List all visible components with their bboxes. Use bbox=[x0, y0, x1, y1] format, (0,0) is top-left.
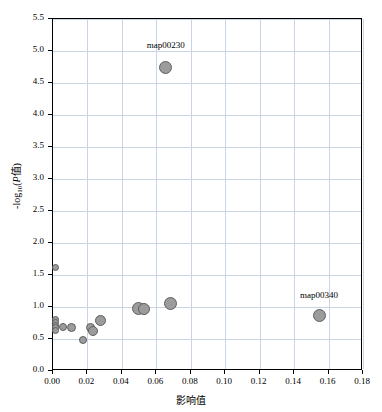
y-tick-label: 4.0 bbox=[8, 108, 44, 118]
y-axis-title-subscript: 10 bbox=[16, 186, 24, 193]
y-tick bbox=[48, 210, 52, 211]
y-gridline bbox=[53, 19, 361, 20]
y-tick-label: 4.5 bbox=[8, 76, 44, 86]
y-gridline bbox=[53, 243, 361, 244]
y-tick bbox=[48, 338, 52, 339]
data-point[interactable] bbox=[88, 326, 98, 336]
y-tick bbox=[48, 82, 52, 83]
y-tick-label: 3.0 bbox=[8, 172, 44, 182]
x-tick bbox=[362, 370, 363, 374]
data-point[interactable] bbox=[313, 309, 326, 322]
x-tick bbox=[86, 370, 87, 374]
data-point[interactable] bbox=[79, 336, 87, 344]
y-tick-label: 0.5 bbox=[8, 332, 44, 342]
x-tick bbox=[190, 370, 191, 374]
data-point[interactable] bbox=[159, 61, 172, 74]
y-gridline bbox=[53, 307, 361, 308]
data-point[interactable] bbox=[138, 303, 150, 315]
data-point[interactable] bbox=[52, 264, 59, 271]
x-gridline bbox=[122, 19, 123, 369]
x-tick-label: 0.18 bbox=[342, 376, 382, 386]
y-tick bbox=[48, 274, 52, 275]
x-tick bbox=[259, 370, 260, 374]
scatter-chart: map00230map00340 -log10(P值) 影响值 0.000.02… bbox=[0, 0, 382, 412]
plot-area: map00230map00340 bbox=[52, 18, 362, 370]
y-tick bbox=[48, 370, 52, 371]
point-annotation: map00230 bbox=[142, 40, 190, 50]
y-gridline bbox=[53, 83, 361, 84]
x-tick bbox=[52, 370, 53, 374]
y-tick bbox=[48, 114, 52, 115]
data-point[interactable] bbox=[95, 315, 106, 326]
point-annotation: map00340 bbox=[295, 290, 343, 300]
y-gridline bbox=[53, 339, 361, 340]
y-tick bbox=[48, 242, 52, 243]
y-gridline bbox=[53, 147, 361, 148]
data-point[interactable] bbox=[67, 323, 76, 332]
y-tick bbox=[48, 306, 52, 307]
x-gridline bbox=[294, 19, 295, 369]
x-tick bbox=[224, 370, 225, 374]
x-gridline bbox=[191, 19, 192, 369]
y-gridline bbox=[53, 211, 361, 212]
x-tick bbox=[121, 370, 122, 374]
y-gridline bbox=[53, 51, 361, 52]
y-tick-label: 5.5 bbox=[8, 12, 44, 22]
y-gridline bbox=[53, 275, 361, 276]
y-tick-label: 2.0 bbox=[8, 236, 44, 246]
x-tick bbox=[155, 370, 156, 374]
x-gridline bbox=[156, 19, 157, 369]
y-tick bbox=[48, 18, 52, 19]
x-tick bbox=[328, 370, 329, 374]
y-tick bbox=[48, 50, 52, 51]
x-gridline bbox=[329, 19, 330, 369]
x-tick bbox=[293, 370, 294, 374]
data-point[interactable] bbox=[164, 297, 177, 310]
x-gridline bbox=[363, 19, 364, 369]
y-tick bbox=[48, 178, 52, 179]
y-tick-label: 5.0 bbox=[8, 44, 44, 54]
y-gridline bbox=[53, 179, 361, 180]
x-axis-title: 影响值 bbox=[0, 392, 382, 407]
y-tick-label: 1.0 bbox=[8, 300, 44, 310]
y-tick-label: 3.5 bbox=[8, 140, 44, 150]
x-gridline bbox=[87, 19, 88, 369]
x-gridline bbox=[225, 19, 226, 369]
y-tick-label: 2.5 bbox=[8, 204, 44, 214]
y-tick bbox=[48, 146, 52, 147]
y-tick-label: 0.0 bbox=[8, 364, 44, 374]
x-gridline bbox=[260, 19, 261, 369]
y-tick-label: 1.5 bbox=[8, 268, 44, 278]
y-gridline bbox=[53, 115, 361, 116]
data-point[interactable] bbox=[52, 327, 59, 334]
